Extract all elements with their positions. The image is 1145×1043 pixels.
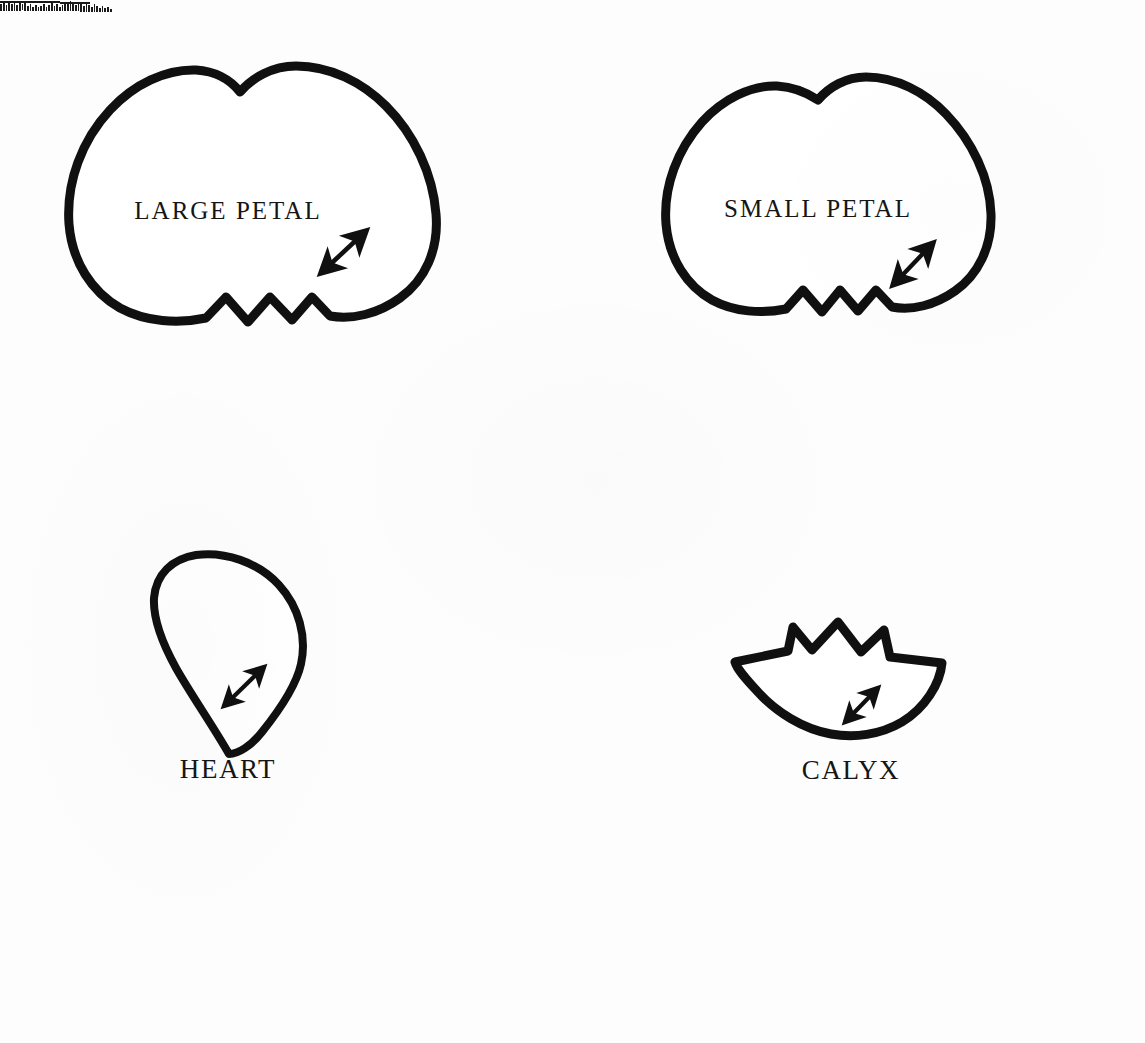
large-petal-outline [69,66,437,322]
pattern-shapes-canvas [0,0,1145,1043]
template-large-petal[interactable] [69,66,437,322]
template-calyx[interactable] [735,622,942,736]
large-petal-label: LARGE PETAL [134,197,321,225]
calyx-label: CALYX [802,755,900,786]
calyx-outline [735,622,942,736]
heart-label: HEART [180,754,276,785]
pattern-sheet-page: LARGE PETAL SMALL PETAL HEART CALYX [0,0,1145,1043]
small-petal-label: SMALL PETAL [724,195,912,223]
heart-outline [154,554,303,754]
template-heart[interactable] [154,554,303,754]
